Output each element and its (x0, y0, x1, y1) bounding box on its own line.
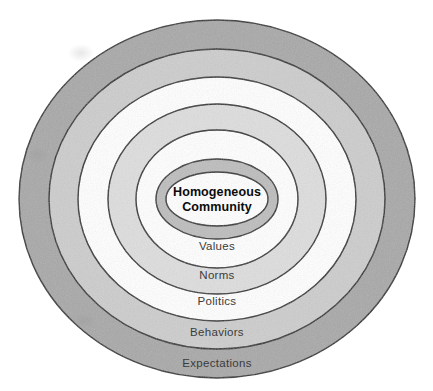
rings-graphic (0, 0, 433, 391)
center-ellipse (166, 172, 268, 226)
concentric-rings-diagram: Homogeneous Community Values Norms Polit… (0, 0, 433, 391)
